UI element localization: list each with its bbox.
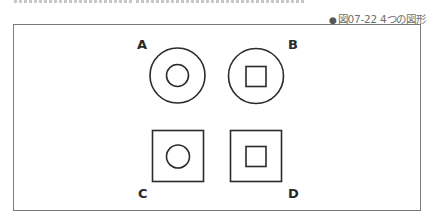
shape-d bbox=[231, 131, 282, 182]
label-d: D bbox=[288, 187, 299, 201]
outer-square bbox=[153, 131, 204, 182]
shape-c bbox=[153, 131, 204, 182]
inner-square bbox=[246, 67, 266, 87]
label-c: C bbox=[138, 187, 148, 201]
figure-shapes bbox=[0, 0, 434, 224]
outer-circle bbox=[229, 49, 284, 104]
outer-square bbox=[231, 131, 282, 182]
shape-a bbox=[150, 48, 205, 103]
outer-circle bbox=[150, 48, 205, 103]
label-b: B bbox=[288, 38, 298, 52]
inner-circle bbox=[167, 65, 189, 87]
shape-b bbox=[229, 49, 284, 104]
label-a: A bbox=[137, 38, 147, 52]
inner-square bbox=[246, 147, 266, 167]
inner-circle bbox=[167, 145, 190, 168]
